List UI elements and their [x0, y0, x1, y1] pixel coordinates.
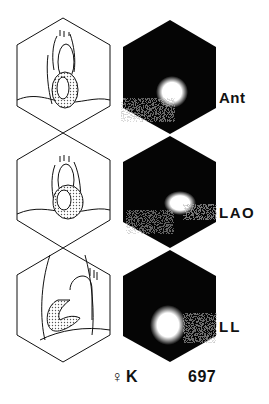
figure-canvas: [0, 0, 269, 404]
schematic-heart-lao: [17, 133, 110, 248]
scintigram-left-lateral: [123, 250, 216, 362]
view-label-lao: LAO: [219, 204, 255, 221]
case-number: 697: [188, 368, 216, 386]
view-label-ant: Ant: [219, 89, 246, 106]
view-label-ll: LL: [219, 318, 241, 335]
scintigram-anterior: [123, 20, 216, 134]
patient-initial: K: [126, 368, 138, 386]
schematic-heart-left-lateral: [17, 248, 110, 362]
scintigram-lao: [123, 136, 216, 248]
schematic-heart-anterior: [17, 18, 110, 133]
sex-symbol: ♀: [111, 368, 124, 386]
